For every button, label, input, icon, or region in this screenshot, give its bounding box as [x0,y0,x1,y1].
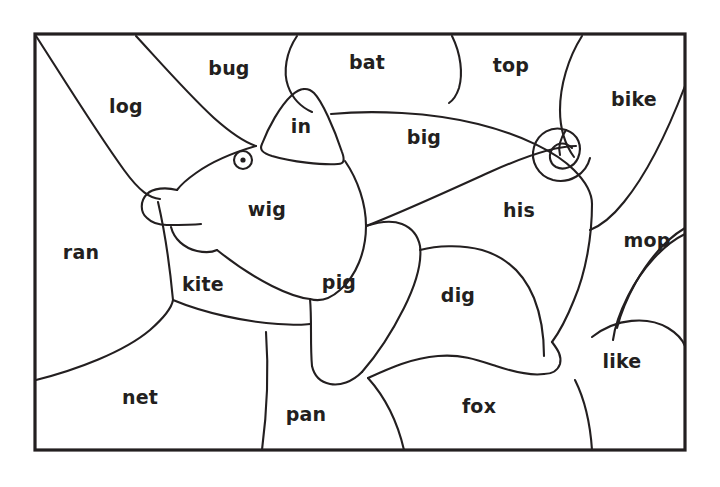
word-label-top: top [493,56,529,75]
color-by-word-illustration [0,0,720,487]
word-label-ran: ran [63,243,99,262]
word-label-big: big [407,128,441,147]
word-label-wig: wig [248,200,286,219]
pig-eye-pupil [240,157,245,162]
word-label-pan: pan [286,405,327,424]
word-label-bike: bike [611,90,657,109]
word-label-in: in [291,117,311,136]
word-label-like: like [603,352,642,371]
word-label-fox: fox [462,397,496,416]
word-label-bat: bat [349,53,385,72]
word-label-mop: mop [623,231,670,250]
word-label-his: his [503,201,535,220]
word-label-pig: pig [322,273,356,292]
word-label-dig: dig [441,286,475,305]
word-label-kite: kite [182,275,224,294]
word-label-log: log [109,97,143,116]
worksheet-page: bug bat top log bike in big his wig ran … [0,0,720,487]
word-label-net: net [122,388,158,407]
pig-snout-line [167,224,201,225]
word-label-bug: bug [208,59,249,78]
